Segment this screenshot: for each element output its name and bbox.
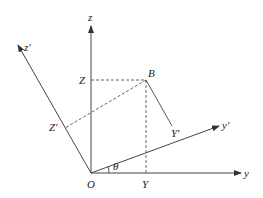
label-Y-prime: Y' [171, 127, 180, 139]
label-z-prime: z' [23, 41, 31, 53]
solid-B-to-Y-prime [146, 80, 172, 126]
diagram-svg: z z' y y' O B Z Z' Y Y' θ [0, 0, 263, 198]
label-origin: O [87, 178, 95, 190]
rotation-diagram: z z' y y' O B Z Z' Y Y' θ [0, 0, 263, 198]
y-prime-axis [91, 126, 219, 173]
label-y-prime: y' [221, 119, 230, 131]
label-B: B [148, 67, 155, 79]
dashed-B-to-Z-prime [65, 80, 146, 128]
label-z: z [87, 11, 93, 23]
label-y: y [243, 167, 249, 179]
label-Z-prime: Z' [49, 121, 58, 133]
label-theta: θ [113, 160, 119, 172]
theta-arc [108, 166, 109, 173]
z-prime-axis [18, 45, 91, 173]
label-Y: Y [142, 178, 150, 190]
label-Z: Z [79, 74, 86, 86]
